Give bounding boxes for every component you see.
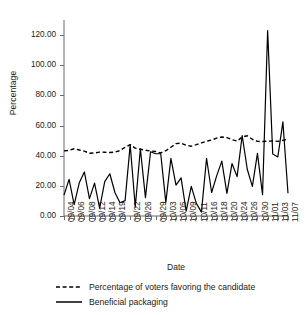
x-axis-tick-mark — [252, 216, 253, 220]
x-axis-tick-mark — [74, 216, 75, 220]
x-axis-tick-mark — [84, 216, 85, 220]
x-axis-tick-mark — [207, 216, 208, 220]
x-axis-tick-mark — [186, 216, 187, 220]
x-axis-tick-mark — [278, 216, 279, 220]
x-axis-tick-mark — [166, 216, 167, 220]
x-axis-tick-mark — [140, 216, 141, 220]
x-axis-tick-mark — [79, 216, 80, 220]
x-axis-tick-mark — [263, 216, 264, 220]
x-axis-tick-mark — [181, 216, 182, 220]
x-axis-tick-label: 11/07 — [291, 202, 300, 222]
x-axis-tick-mark — [120, 216, 121, 220]
legend-label-packaging: Beneficial packaging — [89, 297, 168, 307]
x-axis-tick-mark — [105, 216, 106, 220]
x-axis-title: Date — [64, 262, 288, 272]
legend-label-voters: Percentage of voters favoring the candid… — [89, 282, 255, 292]
legend-item-voters: Percentage of voters favoring the candid… — [56, 279, 306, 294]
x-axis-tick-mark — [217, 216, 218, 220]
x-axis-tick-mark — [222, 216, 223, 220]
y-axis-tick-label: 40.00 — [36, 151, 57, 161]
y-axis-tick-label: 80.00 — [36, 90, 57, 100]
x-axis-tick-mark — [135, 216, 136, 220]
x-axis-tick-mark — [151, 216, 152, 220]
x-axis-tick-mark — [247, 216, 248, 220]
series-line-packaging — [64, 31, 288, 213]
x-axis-tick-mark — [176, 216, 177, 220]
dashed-line-swatch-icon — [56, 282, 82, 292]
x-axis-tick-mark — [212, 216, 213, 220]
x-axis-tick-mark — [156, 216, 157, 220]
x-axis-tick-mark — [257, 216, 258, 220]
x-axis-tick-mark — [125, 216, 126, 220]
x-axis-tick-mark — [110, 216, 111, 220]
x-axis-tick-mark — [288, 216, 289, 220]
chart-legend: Percentage of voters favoring the candid… — [56, 279, 306, 309]
x-axis-tick-mark — [242, 216, 243, 220]
x-axis-tick-mark — [64, 216, 65, 220]
x-axis-tick-mark — [100, 216, 101, 220]
x-axis-tick-mark — [171, 216, 172, 220]
plot-area — [64, 20, 288, 216]
y-axis-tick-label: 0.00 — [40, 211, 56, 221]
y-axis-tick-label: 60.00 — [36, 121, 57, 131]
x-axis-tick-mark — [130, 216, 131, 220]
x-axis-tick-mark — [273, 216, 274, 220]
x-axis-tick-mark — [201, 216, 202, 220]
solid-line-swatch-icon — [56, 297, 82, 307]
series-line-voters — [64, 136, 288, 153]
legend-item-packaging: Beneficial packaging — [56, 294, 306, 309]
series-canvas — [64, 20, 288, 216]
x-axis-tick-mark — [95, 216, 96, 220]
x-axis-tick-mark — [89, 216, 90, 220]
chart-container: Percentage 0.0020.0040.0060.0080.00100.0… — [0, 0, 308, 315]
y-axis-tick-label: 100.00 — [31, 60, 56, 70]
x-axis-tick-mark — [237, 216, 238, 220]
y-axis-tick-label: 120.00 — [31, 30, 56, 40]
x-axis-tick-mark — [69, 216, 70, 220]
x-axis-tick-mark — [145, 216, 146, 220]
y-axis-tick-label: 20.00 — [36, 181, 57, 191]
x-axis-tick-mark — [196, 216, 197, 220]
x-axis-tick-mark — [227, 216, 228, 220]
x-axis-tick-mark — [191, 216, 192, 220]
x-axis-tick-mark — [268, 216, 269, 220]
x-axis-tick-mark — [115, 216, 116, 220]
x-axis-tick-mark — [232, 216, 233, 220]
x-axis-tick-mark — [283, 216, 284, 220]
x-axis-tick-mark — [161, 216, 162, 220]
